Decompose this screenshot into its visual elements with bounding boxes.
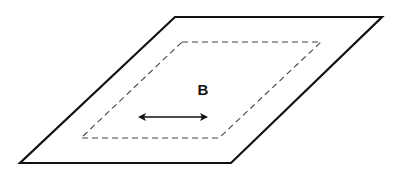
diagram-svg: B: [0, 0, 406, 175]
diagram-canvas: B: [0, 0, 406, 175]
field-label-b: B: [198, 81, 209, 98]
